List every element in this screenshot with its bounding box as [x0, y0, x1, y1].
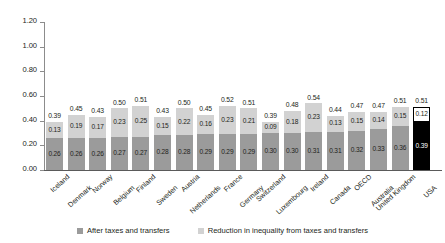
bar-total-label: 0.43	[156, 108, 169, 115]
x-axis-category-label: Belgium	[112, 184, 136, 206]
bar-segment-after-taxes: 0.31	[327, 132, 344, 170]
chart-container: 0.000.200.400.600.801.001.20 0.390.130.2…	[0, 0, 445, 243]
bar-segment-reduction: 0.18	[284, 111, 301, 133]
bar-total-label: 0.50	[113, 100, 126, 107]
bar-segment-after-taxes: 0.26	[46, 138, 63, 170]
bar-segment-label: 0.09	[264, 124, 276, 131]
x-axis-category-label: France	[222, 173, 243, 193]
bar-group[interactable]: 0.470.140.33	[370, 112, 387, 170]
bar-total-label: 0.51	[135, 97, 148, 104]
bar-segment-label: 0.39	[416, 143, 428, 150]
bar-segment-after-taxes: 0.36	[392, 126, 409, 170]
bar-segment-label: 0.23	[113, 119, 125, 126]
bar-segment-label: 0.26	[48, 151, 60, 158]
legend-item[interactable]: Reduction in inequality from taxes and t…	[198, 227, 368, 235]
bar-group[interactable]: 0.470.150.32	[348, 112, 365, 170]
bar-segment-label: 0.21	[243, 118, 255, 125]
bar-segment-label: 0.16	[200, 121, 212, 128]
bar-segment-after-taxes: 0.27	[132, 137, 149, 170]
bar-segment-reduction: 0.21	[240, 108, 257, 134]
x-axis-category-label: Luxembourg	[274, 184, 308, 216]
bar-total-label: 0.44	[329, 107, 342, 114]
bar-group[interactable]: 0.510.150.36	[392, 107, 409, 170]
bar-segment-after-taxes: 0.26	[68, 138, 85, 170]
bar-segment-label: 0.31	[308, 148, 320, 155]
bar-group[interactable]: 0.440.130.31	[327, 116, 344, 170]
x-axis-category-label: Canada	[328, 184, 351, 206]
bar-segment-label: 0.17	[92, 124, 104, 131]
bar-group[interactable]: 0.480.180.30	[284, 111, 301, 170]
bar-group[interactable]: 0.450.190.26	[68, 115, 85, 170]
bar-segment-label: 0.30	[286, 148, 298, 155]
x-axis-category-labels: IcelandDenmarkNorwayBelgiumFinlandSweden…	[44, 171, 444, 221]
bar-total-label: 0.47	[372, 103, 385, 110]
bar-segment-label: 0.27	[135, 150, 147, 157]
bar-total-label: 0.43	[91, 108, 104, 115]
bar-group[interactable]: 0.510.250.27	[132, 106, 149, 170]
bar-total-label: 0.52	[221, 97, 234, 104]
bar-segment-label: 0.26	[92, 151, 104, 158]
bar-segment-reduction: 0.15	[154, 117, 171, 136]
bar-group[interactable]: 0.500.230.27	[111, 108, 128, 170]
bar-segment-label: 0.13	[48, 127, 60, 134]
y-axis-tick-label: 1.20	[23, 16, 37, 25]
bar-segment-after-taxes: 0.31	[305, 132, 322, 170]
bar-group[interactable]: 0.510.210.29	[240, 108, 257, 170]
bar-segment-after-taxes: 0.29	[197, 134, 214, 170]
bar-segment-label: 0.27	[113, 150, 125, 157]
bar-group[interactable]: 0.430.170.26	[89, 117, 106, 170]
x-axis-category-label: Finland	[135, 173, 157, 194]
y-axis-tick-label: 0.00	[23, 164, 37, 173]
bar-total-label: 0.54	[307, 95, 320, 102]
bar-segment-label: 0.30	[264, 148, 276, 155]
x-axis-category-label: Sweden	[155, 184, 179, 207]
bar-segment-label: 0.15	[351, 118, 363, 125]
bar-segment-label: 0.15	[394, 113, 406, 120]
bar-segment-label: 0.29	[243, 149, 255, 156]
legend-item[interactable]: After taxes and transfers	[77, 227, 170, 235]
x-axis-category-label: Iceland	[49, 173, 71, 194]
bar-segment-label: 0.25	[135, 118, 147, 125]
y-axis-tick-label: 0.60	[23, 90, 37, 99]
bar-segment-label: 0.22	[178, 119, 190, 126]
bar-segment-label: 0.14	[372, 117, 384, 124]
x-axis-category-label: Netherlands	[189, 184, 222, 215]
bar-group[interactable]: 0.450.160.29	[197, 115, 214, 170]
bar-segment-label: 0.18	[286, 119, 298, 126]
bar-segment-reduction: 0.23	[111, 108, 128, 136]
x-axis-category-label: Denmark	[66, 184, 92, 209]
bar-group[interactable]: 0.390.090.30	[262, 122, 279, 170]
bar-segment-reduction: 0.15	[392, 107, 409, 126]
bar-group[interactable]: 0.540.230.31	[305, 103, 322, 170]
bar-total-label: 0.39	[264, 113, 277, 120]
bar-segment-reduction: 0.12	[413, 107, 430, 122]
bar-group[interactable]: 0.390.130.26	[46, 122, 63, 170]
bar-segment-label: 0.23	[221, 117, 233, 124]
bar-group[interactable]: 0.430.150.28	[154, 117, 171, 170]
bar-segment-reduction: 0.19	[68, 115, 85, 138]
bar-segment-reduction: 0.25	[132, 106, 149, 137]
bar-total-label: 0.45	[70, 106, 83, 113]
bar-segment-label: 0.29	[200, 149, 212, 156]
y-axis-tick-label: 0.20	[23, 139, 37, 148]
bar-total-label: 0.51	[394, 98, 407, 105]
bar-total-label: 0.51	[415, 98, 428, 105]
bar-segment-reduction: 0.16	[197, 115, 214, 135]
bar-group[interactable]: 0.520.230.29	[219, 106, 236, 170]
bar-segment-reduction: 0.23	[219, 106, 236, 134]
bar-total-label: 0.48	[286, 102, 299, 109]
bar-segment-label: 0.23	[308, 114, 320, 121]
x-axis-category-label: Austria	[179, 173, 200, 193]
bar-group[interactable]: 0.510.120.39	[413, 107, 430, 170]
bar-segment-after-taxes: 0.29	[219, 134, 236, 170]
x-axis-category-label: Norway	[91, 173, 114, 194]
bar-segment-label: 0.12	[416, 111, 428, 118]
bar-group[interactable]: 0.500.220.28	[176, 108, 193, 170]
bar-segment-label: 0.31	[329, 148, 341, 155]
bar-segment-reduction: 0.15	[348, 112, 365, 131]
bar-segment-label: 0.15	[156, 123, 168, 130]
legend-label: After taxes and transfers	[87, 227, 170, 235]
bar-segment-label: 0.19	[70, 123, 82, 130]
bar-segment-label: 0.32	[351, 147, 363, 154]
bar-segment-label: 0.28	[156, 149, 168, 156]
